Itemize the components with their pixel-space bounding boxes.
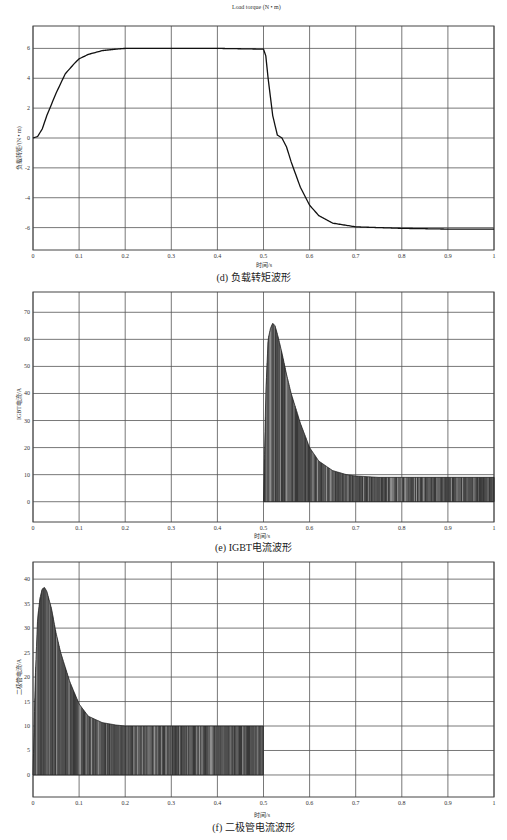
x-tick-label: 0: [32, 253, 35, 259]
x-tick-label: 0.5: [260, 525, 268, 530]
y-tick-label: 5: [27, 747, 30, 753]
y-tick-label: 50: [24, 363, 30, 369]
x-tick-label: 0.8: [398, 525, 406, 530]
y-tick-label: 2: [27, 105, 30, 111]
y-tick-label: 6: [27, 45, 30, 51]
x-tick-label: 0.7: [352, 253, 360, 259]
x-tick-label: 0.8: [398, 800, 406, 806]
y-tick-label: 60: [24, 336, 30, 342]
x-tick-label: 0.3: [168, 253, 176, 259]
y-tick-label: 30: [24, 625, 30, 631]
y-tick-label: 25: [24, 650, 30, 656]
y-tick-label: 0: [27, 772, 30, 778]
y-tick-label: -4: [25, 195, 30, 201]
figure-caption: (f) 二极管电流波形: [0, 819, 507, 834]
x-tick-label: 0.2: [121, 253, 129, 259]
x-tick-label: 0.1: [75, 800, 83, 806]
y-tick-label: 15: [24, 699, 30, 705]
y-tick-label: -2: [25, 165, 30, 171]
x-tick-label: 1: [493, 253, 496, 259]
y-tick-label: 0: [27, 135, 30, 141]
y-tick-label: 40: [24, 390, 30, 396]
x-tick-label: 0.1: [75, 253, 83, 259]
x-tick-label: 0.9: [444, 525, 452, 530]
x-tick-label: 0.6: [306, 253, 314, 259]
chart-panel-load-torque: Load torque (N • m) 00.10.20.30.40.50.60…: [0, 0, 507, 285]
y-tick-label: 30: [24, 418, 30, 424]
x-tick-label: 0.8: [398, 253, 406, 259]
x-tick-label: 0.5: [260, 800, 268, 806]
y-tick-label: 20: [24, 445, 30, 451]
grid: [33, 26, 494, 250]
y-tick-label: 20: [24, 674, 30, 680]
plot-area-load-torque: 00.10.20.30.40.50.60.70.80.91-6-4-20246: [0, 0, 507, 260]
x-tick-label: 0.4: [214, 525, 222, 530]
x-tick-label: 0.2: [121, 800, 129, 806]
x-tick-label: 0.2: [121, 525, 129, 530]
y-tick-label: 35: [24, 601, 30, 607]
x-axis-label: 时间/s: [256, 260, 272, 269]
x-tick-label: 0.9: [444, 253, 452, 259]
figure-caption: (e) IGBT电流波形: [0, 539, 507, 554]
y-tick-label: 0: [27, 499, 30, 505]
chart-panel-igbt-current: 00.10.20.30.40.50.60.70.80.9101020304050…: [0, 285, 507, 555]
x-tick-label: 0.6: [306, 525, 314, 530]
x-tick-label: 0.7: [352, 525, 360, 530]
y-axis-label: IGBT电流/A: [14, 388, 23, 420]
y-tick-label: 10: [24, 472, 30, 478]
x-tick-label: 0.3: [168, 525, 176, 530]
x-tick-label: 0: [32, 525, 35, 530]
x-tick-label: 0.7: [352, 800, 360, 806]
x-tick-label: 0.1: [75, 525, 83, 530]
current-waveform: [33, 587, 264, 774]
x-tick-label: 0.5: [260, 253, 268, 259]
plot-area-diode-current: 00.10.20.30.40.50.60.70.80.9105101520253…: [0, 555, 507, 810]
y-tick-label: 4: [27, 75, 30, 81]
y-axis-label: 负载转矩/(N • m): [14, 126, 23, 170]
x-tick-label: 0.4: [214, 253, 222, 259]
x-tick-label: 0.6: [306, 800, 314, 806]
x-axis-label: 时间/s: [254, 810, 270, 819]
y-tick-label: -6: [25, 225, 30, 231]
x-tick-label: 0.4: [214, 800, 222, 806]
figure-caption: (d) 负载转矩波形: [0, 269, 507, 284]
chart-panel-diode-current: 00.10.20.30.40.50.60.70.80.9105101520253…: [0, 555, 507, 840]
x-tick-label: 0.3: [168, 800, 176, 806]
x-tick-label: 1: [493, 800, 496, 806]
y-tick-label: 70: [24, 309, 30, 315]
y-tick-label: 40: [24, 576, 30, 582]
x-tick-label: 0: [32, 800, 35, 806]
x-tick-label: 1: [493, 525, 496, 530]
y-axis-label: 二极管电流/A: [14, 659, 23, 695]
y-tick-label: 10: [24, 723, 30, 729]
x-tick-label: 0.9: [444, 800, 452, 806]
plot-area-igbt-current: 00.10.20.30.40.50.60.70.80.9101020304050…: [0, 285, 507, 530]
